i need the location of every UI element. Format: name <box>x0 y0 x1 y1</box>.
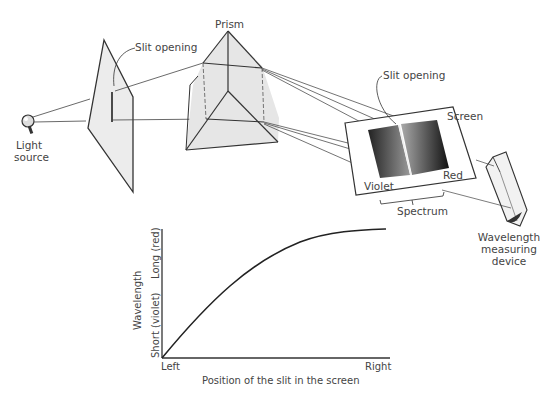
wavelength-curve <box>162 229 386 358</box>
slit-opening-label-2: Slit opening <box>383 69 445 81</box>
prism-label: Prism <box>215 18 244 30</box>
violet-label: Violet <box>364 180 394 192</box>
chart <box>162 229 390 358</box>
x-tick-right: Right <box>365 361 391 373</box>
light-bulb-icon <box>22 115 34 134</box>
device-label: Wavelength measuring device <box>474 231 544 267</box>
x-axis-label: Position of the slit in the screen <box>202 375 360 387</box>
y-tick-short: Short (violet) <box>150 293 161 358</box>
screen-label: Screen <box>447 110 483 122</box>
slit-opening-label-1: Slit opening <box>135 41 197 53</box>
y-tick-long: Long (red) <box>150 227 161 279</box>
slit-screen <box>88 40 133 192</box>
wavelength-device <box>486 152 527 226</box>
light-source-label: Light source <box>14 139 44 163</box>
red-label: Red <box>443 169 463 181</box>
prism <box>186 31 279 150</box>
spectrum-label: Spectrum <box>397 205 448 217</box>
y-axis-label: Wavelength <box>132 271 143 330</box>
x-tick-left: Left <box>161 361 180 373</box>
diagram-canvas <box>0 0 544 401</box>
